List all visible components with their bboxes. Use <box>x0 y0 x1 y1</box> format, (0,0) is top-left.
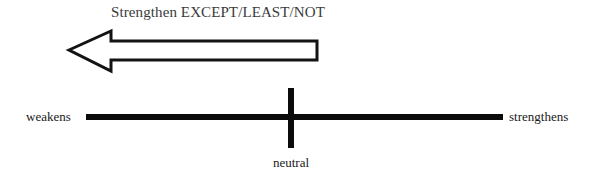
scale-axis-line <box>86 114 503 120</box>
neutral-tick-mark <box>288 88 294 148</box>
scale-diagram: Strengthen EXCEPT/LEAST/NOT weakens stre… <box>0 0 600 177</box>
arrow-caption: Strengthen EXCEPT/LEAST/NOT <box>0 3 436 22</box>
scale-label-weakens: weakens <box>26 109 71 125</box>
left-arrow-outline-shape <box>69 31 317 71</box>
scale-label-neutral: neutral <box>191 155 391 171</box>
left-arrow-outline-icon <box>64 26 322 76</box>
left-arrow-outline-svg <box>64 26 322 76</box>
scale-label-strengthens: strengthens <box>509 109 568 125</box>
